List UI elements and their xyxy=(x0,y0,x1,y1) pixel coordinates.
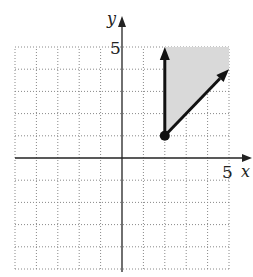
x-tick-label: 5 xyxy=(222,162,233,182)
y-axis-label: y xyxy=(106,9,117,28)
graph: y 5 5 x xyxy=(0,0,253,277)
vertex-dot xyxy=(160,131,170,141)
y-axis-arrow-icon xyxy=(118,16,126,27)
x-axis-label: x xyxy=(241,162,250,181)
y-tick-label: 5 xyxy=(110,38,121,58)
x-axis-arrow-icon xyxy=(242,154,252,162)
